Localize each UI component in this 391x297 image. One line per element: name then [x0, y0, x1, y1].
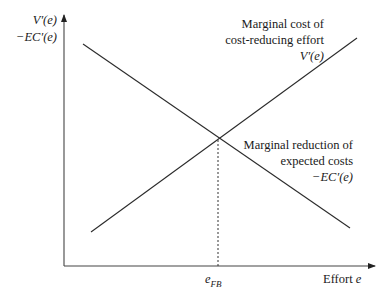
x-axis-label-text: Effort — [323, 272, 356, 286]
x-axis-label: Effort e — [323, 272, 361, 287]
marginal-reduction-curve — [83, 44, 350, 228]
y-axis-label-vprime: V′(e) — [33, 13, 57, 28]
marginal-cost-label-line2: cost-reducing effort — [200, 33, 324, 48]
efb-label-sub: FB — [211, 279, 222, 289]
y-axis-label-ecprime: −EC′(e) — [16, 30, 57, 45]
efb-label: eFB — [205, 272, 222, 292]
marginal-reduction-label-line2: expected costs — [260, 154, 353, 169]
marginal-cost-label-line1: Marginal cost of — [229, 17, 324, 32]
marginal-cost-curve — [91, 38, 357, 232]
x-axis-label-var: e — [356, 272, 362, 286]
marginal-cost-label-var: V′(e) — [260, 49, 324, 64]
marginal-reduction-label-line1: Marginal reduction of — [235, 138, 353, 153]
marginal-reduction-label-var: −EC′(e) — [280, 170, 353, 185]
